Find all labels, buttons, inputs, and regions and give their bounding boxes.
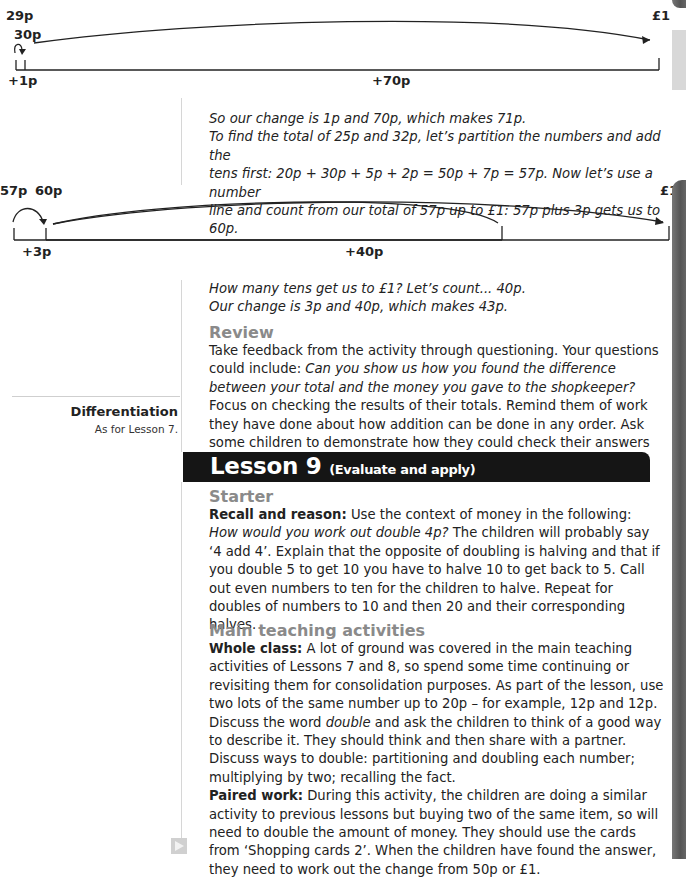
lesson-banner: Lesson 9 (Evaluate and apply): [183, 452, 650, 482]
main-teaching-section: Main teaching activities Whole class: A …: [209, 622, 664, 879]
start-label: 57p: [0, 183, 27, 198]
mid-label: 30p: [14, 27, 41, 42]
starter-text-a: Use the context of money in the followin…: [347, 507, 632, 522]
jump-small-label: +1p: [8, 73, 37, 88]
start-label: 29p: [6, 8, 33, 23]
paired-work-text: Paired work: During this activity, the c…: [209, 787, 664, 879]
page-edge-tab: [672, 30, 686, 90]
starter-heading: Starter: [209, 488, 664, 506]
main-teaching-heading: Main teaching activities: [209, 622, 664, 640]
differentiation-label: Differentiation: [71, 404, 178, 419]
explanation-2-line2: Our change is 3p and 40p, which makes 43…: [209, 298, 664, 316]
explanation-1-line2: To find the total of 25p and 32p, let’s …: [209, 128, 664, 165]
lesson-title-text: Lesson 9: [210, 453, 321, 479]
whole-class-text: Whole class: A lot of ground was covered…: [209, 640, 664, 787]
column-divider: [181, 482, 182, 852]
mid-label: 60p: [35, 183, 62, 198]
play-icon[interactable]: [171, 838, 187, 854]
number-line-1-graphic: [0, 0, 686, 100]
starter-lead: Recall and reason:: [209, 507, 347, 522]
differentiation-rule: [12, 396, 180, 397]
page-edge-tab: [672, 180, 686, 859]
lesson-subtitle: (Evaluate and apply): [329, 462, 475, 477]
jump-small-label: +3p: [22, 244, 51, 259]
column-divider: [181, 98, 182, 185]
whole-class-lead: Whole class:: [209, 641, 302, 656]
explanation-2-line1: How many tens get us to £1? Let’s count.…: [209, 280, 664, 298]
starter-section: Starter Recall and reason: Use the conte…: [209, 488, 664, 635]
column-divider: [181, 280, 182, 452]
jump-large-label: +40p: [345, 244, 383, 259]
review-section: Review Take feedback from the activity t…: [209, 324, 664, 471]
paired-work-lead: Paired work:: [209, 788, 303, 803]
starter-text: Recall and reason: Use the context of mo…: [209, 506, 664, 635]
explanation-1-line1: So our change is 1p and 70p, which makes…: [209, 110, 664, 128]
review-heading: Review: [209, 324, 664, 342]
end-label: £1: [652, 8, 670, 23]
jump-large-label: +70p: [372, 73, 410, 88]
whole-class-word: double: [326, 715, 371, 730]
explanation-2: How many tens get us to £1? Let’s count.…: [209, 280, 664, 317]
number-line-2-arc: [0, 190, 686, 270]
starter-question: How would you work out double 4p?: [209, 525, 449, 540]
differentiation-text: As for Lesson 7.: [95, 423, 178, 435]
lesson-title: Lesson 9 (Evaluate and apply): [210, 453, 475, 479]
starter-text-b: The children will probably say ‘4 add 4’…: [209, 525, 660, 632]
